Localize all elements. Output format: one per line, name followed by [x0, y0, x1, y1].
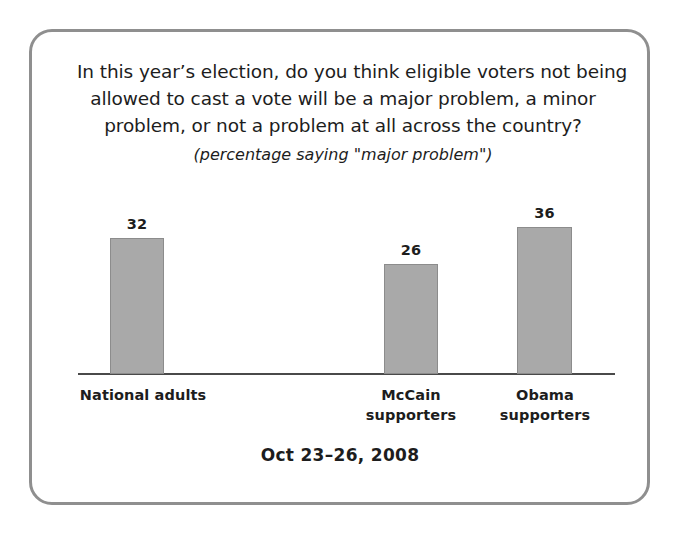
- chart-title-line-1: In this year’s election, do you think el…: [77, 58, 609, 85]
- chart-title-line-3: problem, or not a problem at all across …: [77, 112, 609, 139]
- chart-screenshot: In this year’s election, do you think el…: [0, 0, 680, 534]
- chart-title-line-2: allowed to cast a vote will be a major p…: [77, 85, 609, 112]
- chart-frame: In this year’s election, do you think el…: [29, 29, 650, 505]
- chart-subtitle: (percentage saying "major problem"): [77, 142, 609, 168]
- chart-title-block: In this year’s election, do you think el…: [77, 58, 609, 168]
